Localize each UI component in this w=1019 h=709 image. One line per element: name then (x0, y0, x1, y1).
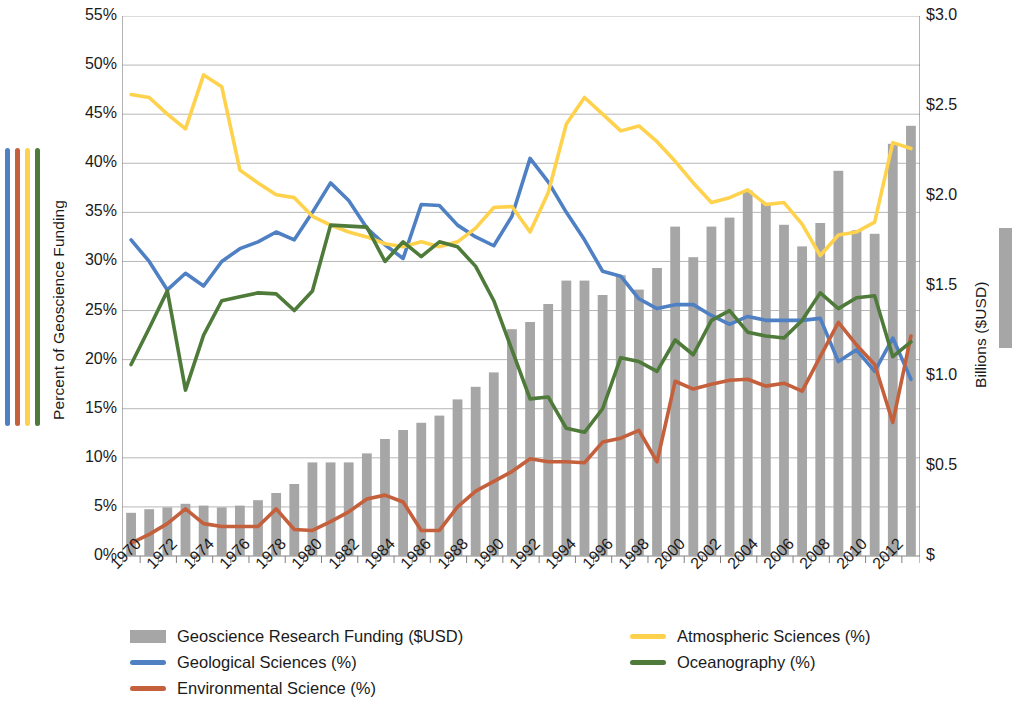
bar-funding (598, 295, 608, 556)
y-tick-left: 35% (85, 202, 117, 220)
y-tick-left: 20% (85, 350, 117, 368)
legend-swatch-bar (130, 630, 166, 643)
bar-funding (797, 246, 807, 556)
bar-funding (652, 268, 662, 556)
y-axis-ticks-left: 0%5%10%15%20%25%30%35%40%45%50%55% (0, 0, 117, 570)
bar-funding (870, 234, 880, 556)
y-tick-left: 50% (85, 55, 117, 73)
legend-item[interactable]: Geoscience Research Funding ($USD) (130, 628, 463, 645)
bar-funding (217, 507, 227, 556)
bar-funding (289, 484, 299, 556)
legend-label: Oceanography (%) (677, 654, 816, 671)
y-tick-right: $1.0 (926, 366, 957, 384)
y-tick-left: 30% (85, 251, 117, 269)
bar-funding (616, 275, 626, 556)
legend-swatch-line (130, 686, 166, 691)
bar-funding (707, 227, 717, 556)
bar-funding (725, 218, 735, 556)
line-oceanography (131, 225, 911, 432)
bar-funding (434, 416, 444, 556)
legend-label: Geoscience Research Funding ($USD) (177, 628, 463, 645)
legend-item[interactable]: Geological Sciences (%) (130, 654, 357, 671)
legend-label: Geological Sciences (%) (177, 654, 357, 671)
y-tick-left: 10% (85, 448, 117, 466)
bar-funding (815, 223, 825, 556)
legend-swatch-line (630, 660, 666, 665)
legend-swatch-line (630, 634, 666, 639)
bar-funding (453, 399, 463, 556)
legend-swatch-line (130, 660, 166, 665)
chart-legend: Geoscience Research Funding ($USD)Geolog… (130, 628, 990, 706)
y-axis-title-right: Billions ($USD) (972, 228, 990, 388)
bar-funding (852, 230, 862, 556)
line-geological-sciences (131, 158, 911, 379)
y-tick-right: $3.0 (926, 6, 957, 24)
y-tick-left: 5% (94, 497, 117, 515)
bar-funding (471, 387, 481, 556)
legend-item[interactable]: Atmospheric Sciences (%) (630, 628, 870, 645)
y-tick-left: 40% (85, 153, 117, 171)
y-tick-right: $0.5 (926, 456, 957, 474)
bar-funding (688, 257, 698, 556)
bar-funding (543, 304, 553, 556)
line-atmospheric-sciences (131, 75, 911, 256)
x-axis-ticks: 1970197219741976197819801982198419861988… (122, 560, 922, 620)
bar-funding (833, 171, 843, 556)
y-tick-right: $1.5 (926, 276, 957, 294)
legend-item[interactable]: Oceanography (%) (630, 654, 816, 671)
bar-funding (561, 281, 571, 556)
y-tick-left: 15% (85, 399, 117, 417)
bar-funding (398, 430, 408, 556)
y-tick-right: $ (926, 546, 935, 564)
y-tick-left: 55% (85, 6, 117, 24)
legend-label: Atmospheric Sciences (%) (677, 628, 870, 645)
y-tick-right: $2.0 (926, 186, 957, 204)
y-tick-left: 25% (85, 301, 117, 319)
bar-funding (761, 203, 771, 556)
bar-funding (326, 462, 336, 556)
chart-svg (122, 16, 920, 570)
bar-funding (779, 225, 789, 556)
bar-funding (489, 372, 499, 556)
legend-label: Environmental Science (%) (177, 680, 376, 697)
bar-funding (743, 191, 753, 556)
bar-funding (634, 290, 644, 556)
y-tick-right: $2.5 (926, 96, 957, 114)
legend-item[interactable]: Environmental Science (%) (130, 680, 376, 697)
line-environmental-science (131, 322, 911, 543)
y-tick-left: 45% (85, 104, 117, 122)
bar-funding (362, 453, 372, 556)
plot-area (122, 16, 920, 556)
bar-funding (580, 281, 590, 556)
bar-funding (525, 322, 535, 556)
funding-bar-swatch (999, 228, 1012, 348)
chart-root: Percent of Geoscience Funding 0%5%10%15%… (0, 0, 1019, 709)
